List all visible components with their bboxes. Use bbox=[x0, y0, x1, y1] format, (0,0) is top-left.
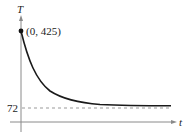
asymptote-label: 72 bbox=[7, 102, 18, 114]
x-axis-arrow-icon bbox=[171, 120, 177, 124]
point-label: (0, 425) bbox=[26, 25, 61, 38]
y-axis-label: T bbox=[17, 3, 24, 15]
x-axis-label: t bbox=[179, 116, 183, 128]
decay-curve bbox=[21, 31, 171, 106]
initial-point bbox=[19, 29, 24, 34]
y-axis-arrow-icon bbox=[19, 15, 23, 21]
chart: T t (0, 425) 72 bbox=[0, 0, 188, 139]
